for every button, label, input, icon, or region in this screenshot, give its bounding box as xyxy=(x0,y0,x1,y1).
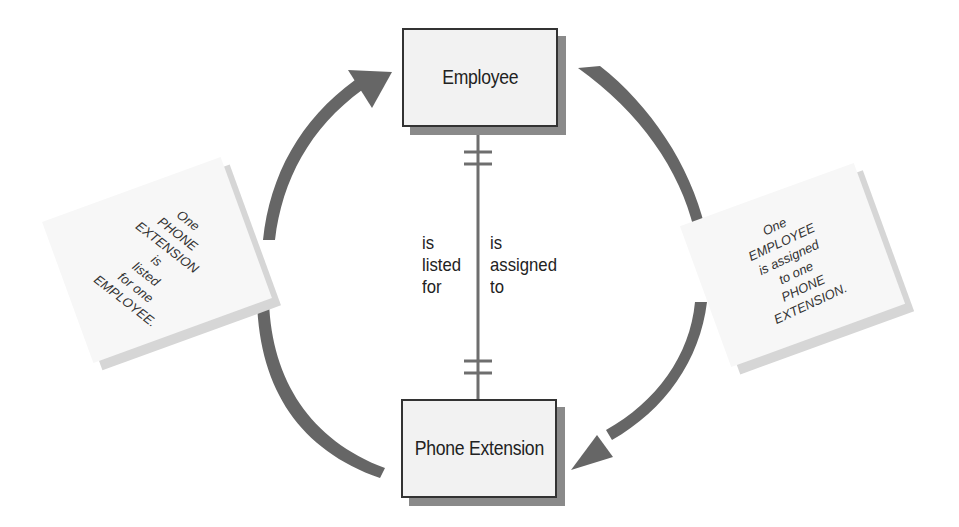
entity-employee[interactable]: Employee xyxy=(402,28,558,127)
arrow-up-left xyxy=(263,80,362,240)
relationship-label-right: is assigned to xyxy=(490,232,566,298)
arc-bottom-left xyxy=(257,302,385,478)
arc-top-right xyxy=(578,66,705,229)
arrow-down-right xyxy=(606,302,707,440)
arrowhead-down-right xyxy=(571,435,613,470)
entity-phone-extension-label: Phone Extension xyxy=(414,437,543,460)
entity-employee-label: Employee xyxy=(442,66,518,89)
relationship-label-left: is listed for xyxy=(422,232,466,298)
entity-phone-extension[interactable]: Phone Extension xyxy=(401,399,557,498)
